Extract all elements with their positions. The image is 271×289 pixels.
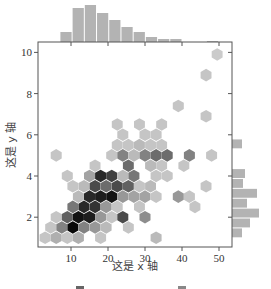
joint-hexbin-chart: 1020304050 246810 这是 x 轴 这是 y 轴 [0,0,271,289]
hexbin-cell [156,118,167,131]
hexbin-cell [201,180,212,193]
hexbin-cell [90,221,101,234]
x-tick-label: 40 [177,252,189,264]
hexbin-cell [123,180,134,193]
histogram-bar [232,228,242,237]
hexbin-cell [95,211,106,224]
hexbin-cell [117,170,128,183]
hexbin-cell [79,221,90,234]
hexbin-cell [140,149,151,162]
hexbin-cell [67,201,78,214]
hexbin-cell [156,159,167,172]
histogram-bar [134,32,145,42]
hexbin-cell [128,190,139,203]
y-tick-label: 10 [21,46,33,58]
hexbin-cell [67,221,78,234]
hexbin-cell [112,118,123,131]
x-tick-label: 10 [66,252,78,264]
hexbin-cell [62,211,73,224]
hexbin-cell [151,129,162,142]
hexbin-cell [101,221,112,234]
histogram-bar [232,169,245,178]
hexbin-cell [106,149,117,162]
hexbin-cell [140,211,151,224]
y-tick-label: 6 [27,129,33,141]
hexbin-cell [101,180,112,193]
hexbin-cell [95,170,106,183]
hexbin-cell [90,159,101,172]
x-axis-label: 这是 x 轴 [112,259,159,273]
hexbin-cell [106,190,117,203]
hexbin-cell [145,139,156,152]
hexbin-cell [51,149,62,162]
histogram-bar [60,32,71,42]
hexbin-cell [51,232,62,245]
hexbin-cell [40,232,51,245]
hexbin-cell [112,180,123,193]
hexbin-cell [106,170,117,183]
hexbin-cell [62,232,73,245]
histogram-bar [232,139,242,148]
hexbin-cell [56,221,67,234]
hexbin-cell [73,232,84,245]
hexbin-cell [201,69,212,82]
hexbin-cell [151,232,162,245]
hexbin-cell [51,211,62,224]
hexbin-cell [128,170,139,183]
hexbin-cell [79,180,90,193]
hexbin-cell [140,190,151,203]
y-tick-label: 8 [27,88,33,100]
hexbin-cell [117,190,128,203]
hexbin-cell [73,190,84,203]
x-tick-label: 50 [214,252,226,264]
histogram-bar [232,199,247,208]
hexbin-cell [79,201,90,214]
hexbin-layer [40,48,223,244]
hexbin-cell [140,129,151,142]
histogram-bar [121,27,132,42]
hexbin-cell [123,221,134,234]
hexbin-cell [117,129,128,142]
hexbin-cell [84,170,95,183]
histogram-bar [73,8,84,42]
hexbin-cell [201,110,212,123]
y-tick-label: 2 [27,211,33,223]
hexbin-cell [62,170,73,183]
hexbin-cell [123,159,134,172]
hexbin-cell [134,180,145,193]
marginal-x-histogram [60,5,218,42]
hexbin-cell [151,170,162,183]
hexbin-cell [84,190,95,203]
hexbin-cell [173,190,184,203]
hexbin-cell [162,170,173,183]
hexbin-cell [95,190,106,203]
histogram-bar [97,13,108,42]
hexbin-cell [178,159,189,172]
hexbin-cell [206,149,217,162]
hexbin-cell [123,139,134,152]
hexbin-cell [101,201,112,214]
hexbin-cell [190,201,201,214]
hexbin-cell [117,149,128,162]
hexbin-cell [184,149,195,162]
histogram-bar [232,209,259,218]
y-tick-label: 4 [27,170,33,182]
hexbin-cell [145,159,156,172]
hexbin-cell [151,149,162,162]
hexbin-cell [134,139,145,152]
hexbin-cell [90,180,101,193]
hexbin-cell [156,139,167,152]
histogram-bar [232,189,257,198]
hexbin-cell [134,118,145,131]
marginal-y-histogram [232,139,259,237]
y-axis-label: 这是 y 轴 [4,122,18,169]
hexbin-cell [151,190,162,203]
hexbin-cell [90,201,101,214]
hexbin-cell [73,211,84,224]
hexbin-cell [95,232,106,245]
histogram-bar [232,219,250,228]
hexbin-cell [84,211,95,224]
hexbin-cell [145,180,156,193]
hexbin-cell [67,180,78,193]
hexbin-cell [112,201,123,214]
